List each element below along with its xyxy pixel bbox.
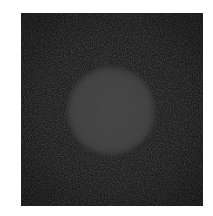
circular-disc	[66, 66, 156, 156]
disc-grain-texture	[66, 66, 156, 156]
figure-root	[0, 0, 213, 216]
disc-rim-shading	[66, 66, 156, 156]
image-field-panel	[21, 13, 203, 206]
